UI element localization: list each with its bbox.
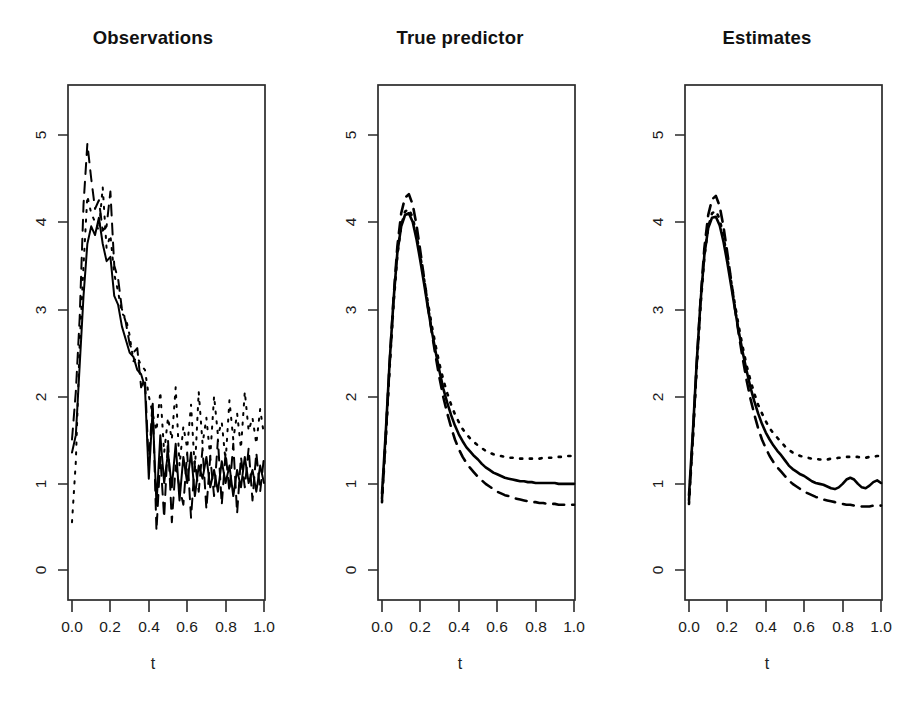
y-tick-label: 5 (649, 131, 666, 140)
x-tick-label: 0.0 (61, 618, 83, 635)
y-tick-label: 3 (32, 306, 49, 315)
y-tick-label: 2 (32, 393, 49, 402)
series-line-solid (689, 217, 881, 495)
y-tick-label: 0 (342, 565, 359, 574)
plot-box-true-predictor (378, 85, 575, 600)
panel-estimates: Estimates 5 4 3 2 1 0 0.0 0.2 0.4 0.6 0.… (614, 0, 920, 712)
y-axis-observations: 5 4 3 2 1 0 (32, 131, 68, 575)
x-tick-label: 0.2 (99, 618, 121, 635)
x-tick-label: 0.0 (678, 618, 700, 635)
x-axis-label-estimates: t (614, 655, 920, 673)
y-tick-label: 4 (649, 217, 666, 226)
y-tick-label: 3 (342, 306, 359, 315)
x-axis-label-true-predictor: t (307, 655, 613, 673)
y-axis-estimates: 5 4 3 2 1 0 (649, 131, 685, 575)
x-tick-label: 0.8 (215, 618, 237, 635)
x-tick-label: 0.2 (716, 618, 738, 635)
x-tick-label: 1.0 (870, 618, 892, 635)
series-line-solid (382, 213, 574, 493)
y-tick-label: 1 (649, 480, 666, 489)
x-tick-label: 0.4 (755, 618, 777, 635)
series-line-dashed (72, 144, 264, 531)
y-axis-true-predictor: 5 4 3 2 1 0 (342, 131, 378, 575)
x-tick-label: 0.6 (486, 618, 508, 635)
x-tick-label: 1.0 (253, 618, 275, 635)
y-tick-label: 1 (32, 480, 49, 489)
plot-area-true-predictor: 5 4 3 2 1 0 0.0 0.2 0.4 0.6 0.8 1.0 (307, 0, 613, 712)
x-tick-label: 0.8 (525, 618, 547, 635)
plot-area-estimates: 5 4 3 2 1 0 0.0 0.2 0.4 0.6 0.8 1.0 (614, 0, 920, 712)
panel-observations: Observations 5 4 3 2 1 0 0.0 0.2 0.4 0.6… (0, 0, 306, 712)
figure-canvas: Observations 5 4 3 2 1 0 0.0 0.2 0.4 0.6… (0, 0, 920, 712)
x-tick-label: 0.4 (448, 618, 470, 635)
x-axis-estimates: 0.0 0.2 0.4 0.6 0.8 1.0 (678, 600, 892, 635)
x-tick-label: 0.4 (138, 618, 160, 635)
y-tick-label: 2 (649, 393, 666, 402)
y-tick-label: 3 (649, 306, 666, 315)
x-tick-label: 0.0 (371, 618, 393, 635)
y-tick-label: 0 (649, 565, 666, 574)
x-tick-label: 0.8 (832, 618, 854, 635)
y-tick-label: 5 (32, 131, 49, 140)
y-tick-label: 2 (342, 393, 359, 402)
x-tick-label: 0.6 (793, 618, 815, 635)
x-axis-true-predictor: 0.0 0.2 0.4 0.6 0.8 1.0 (371, 600, 585, 635)
panel-true-predictor: True predictor 5 4 3 2 1 0 0.0 0.2 0.4 0… (307, 0, 613, 712)
x-tick-label: 0.6 (176, 618, 198, 635)
series-group-observations (72, 144, 264, 531)
plot-box-estimates (685, 85, 882, 600)
y-tick-label: 0 (32, 565, 49, 574)
series-group-estimates (689, 196, 881, 507)
y-tick-label: 4 (342, 217, 359, 226)
x-axis-label-observations: t (0, 655, 306, 673)
x-axis-observations: 0.0 0.2 0.4 0.6 0.8 1.0 (61, 600, 275, 635)
x-tick-label: 0.2 (409, 618, 431, 635)
series-group-true-predictor (382, 194, 574, 505)
plot-area-observations: 5 4 3 2 1 0 0.0 0.2 0.4 0.6 0.8 1.0 (0, 0, 306, 712)
x-tick-label: 1.0 (563, 618, 585, 635)
y-tick-label: 4 (32, 217, 49, 226)
y-tick-label: 1 (342, 480, 359, 489)
y-tick-label: 5 (342, 131, 359, 140)
plot-box-observations (68, 85, 265, 600)
